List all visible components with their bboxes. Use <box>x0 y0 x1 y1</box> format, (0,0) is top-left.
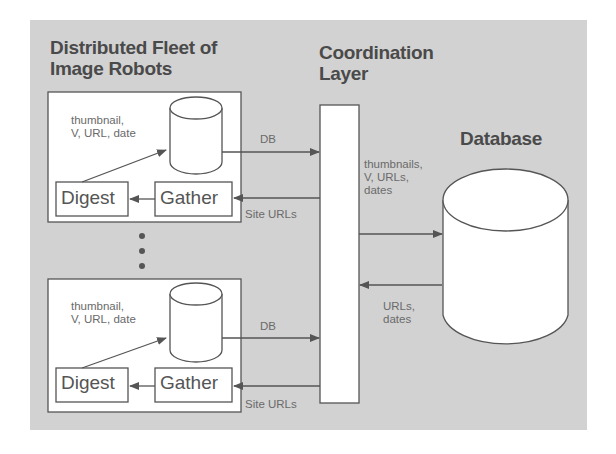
fleet-title-line1: Distributed Fleet of <box>50 37 217 58</box>
label-line2: V, URL, date <box>71 313 136 326</box>
site-urls-label-bottom: Site URLs <box>245 398 297 411</box>
db-arrow-label-bottom: DB <box>260 320 276 333</box>
from-database-label: URLs, dates <box>383 300 415 326</box>
more-robots-dots <box>139 233 145 269</box>
to-db-line1: thumbnails, <box>364 158 423 171</box>
digest-label-top: Digest <box>61 187 115 209</box>
fleet-title-line2: Image Robots <box>50 58 217 79</box>
site-urls-label-top: Site URLs <box>245 208 297 221</box>
coordination-layer-bar <box>320 105 359 403</box>
fleet-title: Distributed Fleet of Image Robots <box>50 37 217 79</box>
gather-label-bottom: Gather <box>160 372 218 394</box>
to-db-line3: dates <box>364 184 423 197</box>
db-arrow-label-top: DB <box>260 133 276 146</box>
digest-label-bottom: Digest <box>61 372 115 394</box>
robot-bottom-data-label: thumbnail, V, URL, date <box>71 300 136 326</box>
coordination-title: Coordination Layer <box>319 42 434 84</box>
coord-title-line2: Layer <box>319 63 434 84</box>
from-db-line2: dates <box>383 313 415 326</box>
to-database-label: thumbnails, V, URLs, dates <box>364 158 423 197</box>
gather-label-top: Gather <box>160 187 218 209</box>
to-db-line2: V, URLs, <box>364 171 423 184</box>
label-line1: thumbnail, <box>71 300 136 313</box>
label-line2: V, URL, date <box>71 127 136 140</box>
from-db-line1: URLs, <box>383 300 415 313</box>
database-title: Database <box>460 128 542 149</box>
robot-top-data-label: thumbnail, V, URL, date <box>71 114 136 140</box>
label-line1: thumbnail, <box>71 114 136 127</box>
coord-title-line1: Coordination <box>319 42 434 63</box>
